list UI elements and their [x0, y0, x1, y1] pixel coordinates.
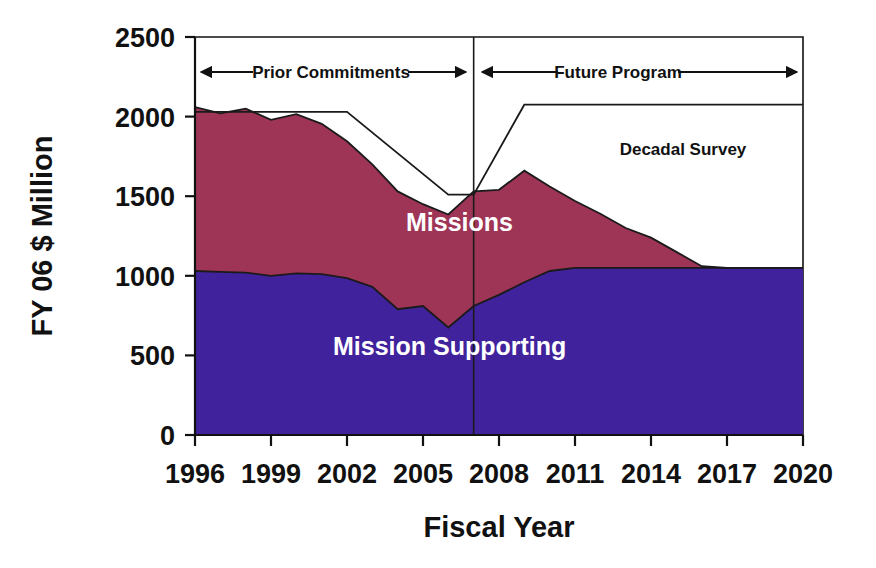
x-tick-label: 2020 — [773, 459, 833, 489]
chart-container: 05001000150020002500 FY 06 $ Million 199… — [0, 0, 876, 568]
decadal-survey-label: Decadal Survey — [620, 140, 747, 159]
x-tick-label: 1999 — [241, 459, 301, 489]
x-tick-label: 1996 — [165, 459, 225, 489]
series-label-missions: Missions — [406, 208, 513, 236]
prior-commitments-label: Prior Commitments — [252, 63, 410, 82]
y-tick-label: 500 — [130, 341, 175, 371]
x-tick-label: 2002 — [317, 459, 377, 489]
x-tick-label: 2008 — [469, 459, 529, 489]
y-tick-label: 1000 — [115, 262, 175, 292]
stacked-area-chart: 05001000150020002500 FY 06 $ Million 199… — [0, 0, 876, 568]
y-tick-label: 2500 — [115, 23, 175, 53]
series-label-mission-supporting: Mission Supporting — [333, 332, 566, 360]
future-program-label: Future Program — [554, 63, 682, 82]
y-tick-label: 0 — [160, 421, 175, 451]
x-axis-title: Fiscal Year — [423, 511, 574, 543]
x-tick-label: 2014 — [621, 459, 681, 489]
y-tick-label: 1500 — [115, 182, 175, 212]
x-tick-label: 2005 — [393, 459, 453, 489]
y-tick-label: 2000 — [115, 103, 175, 133]
y-axis-title: FY 06 $ Million — [26, 136, 58, 337]
x-tick-label: 2017 — [697, 459, 757, 489]
x-tick-label: 2011 — [546, 459, 605, 489]
